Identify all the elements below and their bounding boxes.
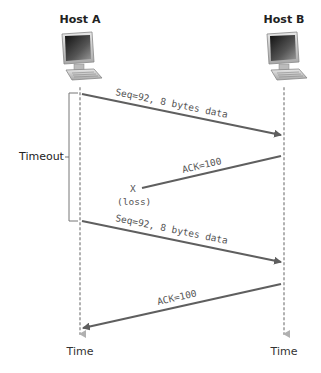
loss-marker: X (130, 183, 136, 194)
timeout-label: Timeout (19, 150, 64, 163)
message-label-1: Seq=92, 8 bytes data (115, 86, 229, 120)
computer-icon-host-b (267, 32, 307, 80)
sequence-diagram: Seq=92, 8 bytes data ACK=100 X (loss) Se… (0, 0, 321, 373)
time-label-host-a: Time (67, 345, 94, 358)
loss-label: (loss) (117, 196, 151, 207)
time-label-host-b: Time (271, 345, 298, 358)
computer-icon-host-a (62, 32, 102, 80)
timeout-bracket (65, 93, 78, 221)
message-label-3: Seq=92, 8 bytes data (115, 212, 229, 246)
